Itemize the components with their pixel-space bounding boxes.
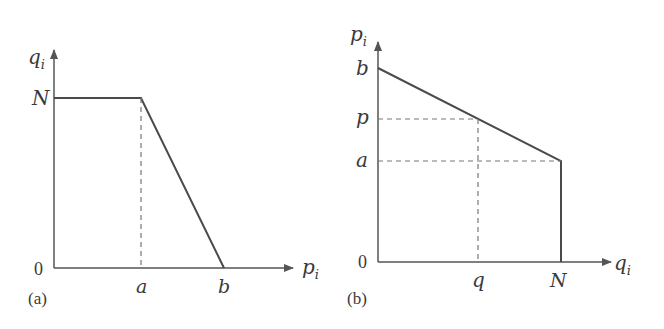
panel-b-y-axis-label: pi [350, 22, 367, 49]
diagram-canvas: qi N 0 a b pi (a) pi b p a 0 q N qi (b) [0, 0, 664, 329]
panel-a-tick-N: N [31, 86, 51, 110]
panel-b-tick-p: p [356, 105, 369, 129]
panel-a-x-axis-label: pi [302, 255, 319, 282]
panel-a: qi N 0 a b pi (a) [28, 45, 319, 308]
panel-b-tick-q: q [472, 268, 485, 292]
panel-b-origin: 0 [358, 252, 367, 272]
panel-a-caption: (a) [28, 289, 47, 308]
panel-b-inverse-demand-curve [378, 68, 561, 262]
panel-b-tick-N: N [549, 269, 568, 291]
panel-a-y-axis-label: qi [28, 45, 45, 72]
panel-b-x-axis-label: qi [614, 251, 631, 278]
panel-b-caption: (b) [347, 289, 367, 308]
panel-b-tick-b: b [356, 56, 369, 80]
panel-b-tick-a: a [356, 148, 368, 172]
panel-b: pi b p a 0 q N qi (b) [347, 22, 631, 308]
panel-a-tick-b: b [218, 275, 230, 297]
panel-a-origin: 0 [34, 259, 43, 279]
panel-a-tick-a: a [136, 275, 147, 297]
panel-a-demand-curve [54, 98, 224, 268]
